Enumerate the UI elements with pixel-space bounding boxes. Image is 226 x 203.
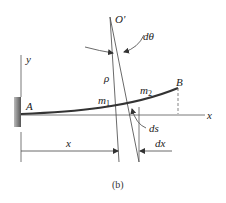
point-m1-label: m1 bbox=[98, 94, 110, 108]
arc-length-label: ds bbox=[149, 122, 159, 134]
fixed-end-label: A bbox=[25, 100, 33, 112]
dimension-dx-label: dx bbox=[155, 137, 166, 149]
dimension-x-label: x bbox=[65, 137, 71, 149]
angle-arc-right bbox=[124, 35, 144, 52]
angle-label: dθ bbox=[143, 30, 155, 42]
radius-label: ρ bbox=[103, 72, 109, 84]
free-end-label: B bbox=[176, 76, 183, 88]
point-m2-label: m2 bbox=[140, 84, 152, 98]
angle-arc-left bbox=[85, 47, 113, 53]
y-axis-label: y bbox=[25, 53, 31, 65]
fixed-support-wall bbox=[14, 97, 21, 127]
beam-curvature-diagram: y x O' dθ ρ A B m1 m2 ds x dx (b) bbox=[0, 0, 226, 203]
x-axis-label: x bbox=[206, 109, 212, 121]
center-label: O' bbox=[115, 13, 126, 25]
figure-caption: (b) bbox=[112, 179, 124, 191]
